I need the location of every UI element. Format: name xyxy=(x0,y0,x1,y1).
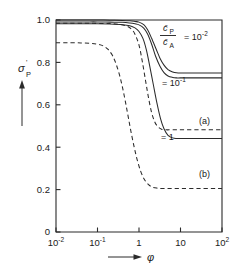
x-axis-arrow-head xyxy=(134,254,143,259)
x-axis-tick-labels: 10-210-1110102 xyxy=(48,236,230,248)
y-tick-label-5: 1.0 xyxy=(37,14,50,25)
legend-equals-exponent: -2 xyxy=(202,30,208,37)
curve-label-a: (a) xyxy=(199,116,210,126)
y-axis-title-sigma: σ xyxy=(18,62,25,74)
legend-ratio: c̄ P c̄ A = 10 -2 xyxy=(160,23,208,49)
figure-container: 00.20.40.60.81.0 10-210-1110102 σ ' P φ … xyxy=(0,0,240,270)
y-axis-title-subscript: P xyxy=(26,70,31,79)
curve-label-10e-1-exponent: -1 xyxy=(180,76,186,83)
curve-4 xyxy=(56,43,222,189)
legend-denominator-subscript: A xyxy=(170,42,175,49)
x-tick-label-1: 10-1 xyxy=(89,236,106,248)
y-axis-arrow-head xyxy=(19,80,25,89)
curve-labels: = 10 -1 (a) = 1 (b) xyxy=(161,76,210,180)
y-axis-tick-labels: 00.20.40.60.81.0 xyxy=(37,14,50,237)
y-axis-title: σ ' P xyxy=(18,58,31,126)
x-tick-label-0: 10-2 xyxy=(48,236,65,248)
legend-numerator: c̄ xyxy=(163,23,168,33)
y-tick-label-2: 0.4 xyxy=(37,142,50,153)
x-tick-label-2: 1 xyxy=(136,237,141,248)
sigma-p-vs-phi-chart: 00.20.40.60.81.0 10-210-1110102 σ ' P φ … xyxy=(0,0,240,270)
y-tick-label-1: 0.2 xyxy=(37,184,50,195)
x-axis-ticks xyxy=(56,228,222,233)
x-axis-title: φ xyxy=(108,251,154,263)
x-tick-label-3: 10 xyxy=(175,237,186,248)
data-curves xyxy=(56,20,222,189)
legend-numerator-subscript: P xyxy=(170,28,175,35)
y-axis-title-prime: ' xyxy=(26,58,28,67)
curve-label-1: = 1 xyxy=(161,132,174,142)
y-tick-label-3: 0.6 xyxy=(37,99,50,110)
y-axis-ticks xyxy=(56,20,61,232)
x-axis-title-phi: φ xyxy=(147,251,154,263)
curve-label-b: (b) xyxy=(199,169,210,179)
curve-label-10e-1: = 10 xyxy=(162,78,180,88)
plot-frame xyxy=(56,20,222,232)
legend-denominator: c̄ xyxy=(163,37,168,47)
legend-equals-value: = 10 xyxy=(184,32,202,42)
curve-1 xyxy=(56,22,222,78)
y-tick-label-4: 0.8 xyxy=(37,57,50,68)
x-tick-label-4: 102 xyxy=(215,236,230,248)
